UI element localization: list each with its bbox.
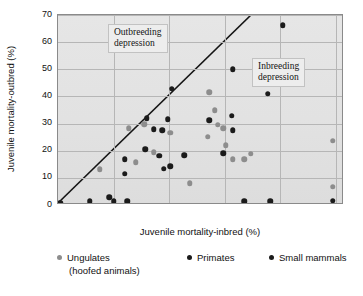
scatter-chart-figure: Juvenile mortality-outbred (%) 204060801… <box>0 0 363 296</box>
legend-label: Small mammals <box>279 252 347 263</box>
data-point <box>187 181 193 187</box>
data-point <box>229 113 235 119</box>
data-point <box>207 90 213 96</box>
y-axis-title: Juvenile mortality-outbred (%) <box>4 14 18 204</box>
data-point <box>205 134 211 140</box>
gridline-vertical <box>169 15 170 203</box>
data-point <box>122 157 128 163</box>
y-axis-tick-label: 10 <box>42 172 52 181</box>
data-point <box>87 198 93 204</box>
legend-label-line-2: (hoofed animals) <box>69 265 140 276</box>
data-point <box>248 151 254 157</box>
legend-label: Ungulates <box>67 252 110 263</box>
plot-area: 20406080100 <box>57 14 343 204</box>
y-axis-tick <box>57 151 58 152</box>
x-axis-tick <box>336 203 337 204</box>
gridline-horizontal <box>58 178 342 179</box>
data-point <box>111 198 117 204</box>
y-axis-tick-label: 50 <box>42 64 52 73</box>
gridline-vertical <box>225 15 226 203</box>
data-point <box>230 156 236 162</box>
legend-item-ungulates[interactable]: Ungulates(hoofed animals) <box>57 252 110 263</box>
data-point <box>241 157 247 163</box>
data-point <box>169 86 175 92</box>
data-point <box>133 159 139 165</box>
data-point <box>220 151 226 157</box>
y-axis-tick-label: 60 <box>42 37 52 46</box>
reference-line <box>58 15 342 203</box>
legend-marker-icon <box>187 255 192 260</box>
data-point <box>151 126 157 132</box>
y-axis-tick-label: 20 <box>42 145 52 154</box>
data-point <box>159 128 165 134</box>
data-point <box>223 143 229 149</box>
gridline-horizontal <box>58 124 342 125</box>
y-axis-tick-label: 40 <box>42 91 52 100</box>
data-point <box>161 166 167 172</box>
annotation-line-2: depression <box>114 38 162 49</box>
legend-marker-icon <box>57 255 62 260</box>
legend-marker-icon <box>269 255 274 260</box>
x-axis-title: Juvenile mortality-inbred (%) <box>57 226 343 237</box>
data-point <box>268 198 274 204</box>
data-point <box>212 107 218 113</box>
data-point <box>241 198 247 204</box>
data-point <box>168 130 174 136</box>
data-point <box>280 23 286 29</box>
annotation-line-1: Outbreeding <box>114 27 162 38</box>
data-point <box>143 147 149 153</box>
annotation-line-1: Inbreeding <box>258 61 299 72</box>
data-point <box>182 153 188 159</box>
gridline-horizontal <box>58 15 342 16</box>
annotation-outbreeding-depression: Outbreedingdepression <box>108 24 168 53</box>
data-point <box>230 67 236 73</box>
data-point <box>141 121 147 127</box>
chart-legend: Ungulates(hoofed animals)PrimatesSmall m… <box>57 252 357 292</box>
gridline-vertical <box>336 15 337 203</box>
y-axis-tick-label: 0 <box>47 200 52 209</box>
data-point <box>126 126 132 132</box>
annotation-line-2: depression <box>258 72 299 83</box>
y-axis-tick <box>57 96 58 97</box>
data-point <box>330 138 336 144</box>
gridline-horizontal <box>58 42 342 43</box>
data-point <box>144 116 150 122</box>
x-axis-tick <box>225 203 226 204</box>
gridline-horizontal <box>58 151 342 152</box>
data-point <box>157 153 163 159</box>
data-point <box>207 118 213 124</box>
data-point <box>125 198 131 204</box>
y-axis-tick-label: 70 <box>42 10 52 19</box>
y-axis-tick <box>57 69 58 70</box>
x-axis-tick <box>280 203 281 204</box>
data-point <box>265 91 271 97</box>
legend-label: Primates <box>197 252 234 263</box>
data-point <box>122 171 128 177</box>
x-axis-tick <box>169 203 170 204</box>
data-point <box>330 184 336 190</box>
data-point <box>57 200 63 204</box>
x-axis-tick <box>114 203 115 204</box>
y-axis-tick <box>57 42 58 43</box>
annotation-inbreeding-depression: Inbreedingdepression <box>252 58 305 87</box>
data-point <box>168 164 174 170</box>
gridline-vertical <box>280 15 281 203</box>
y-axis-tick-label: 30 <box>42 118 52 127</box>
legend-item-primates[interactable]: Primates <box>187 252 234 263</box>
y-axis-tick <box>57 15 58 16</box>
gridline-horizontal <box>58 96 342 97</box>
legend-item-smallmammals[interactable]: Small mammals <box>269 252 347 263</box>
data-point <box>165 116 171 122</box>
y-axis-tick <box>57 124 58 125</box>
data-point <box>330 198 336 204</box>
data-point <box>97 166 103 172</box>
y-axis-tick <box>57 178 58 179</box>
data-point <box>220 125 226 131</box>
data-point <box>230 128 236 134</box>
